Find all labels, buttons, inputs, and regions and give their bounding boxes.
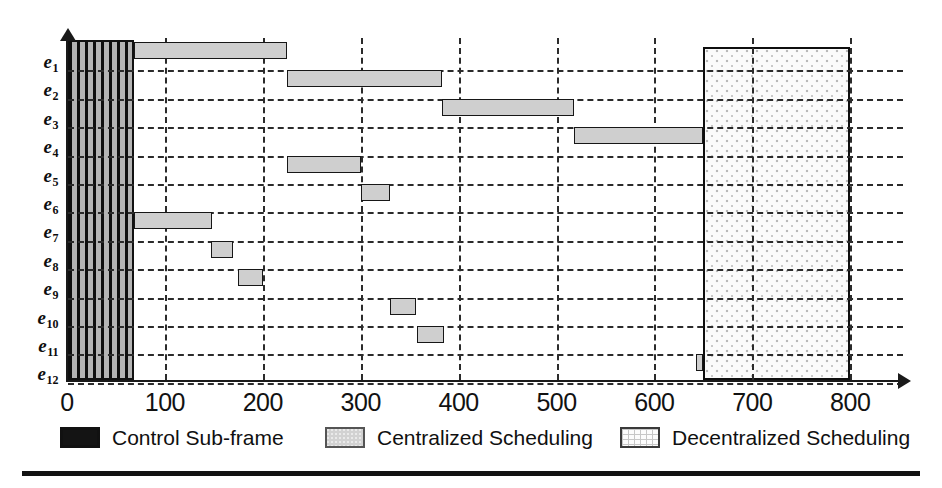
legend-label-control-subframe: Control Sub-frame	[112, 427, 284, 448]
task-bar-e12	[696, 354, 703, 371]
legend: Control Sub-frame Centralized Scheduling…	[0, 424, 942, 458]
task-bar-e1	[134, 42, 288, 59]
gridline-vertical	[263, 38, 265, 380]
gridline-horizontal	[68, 127, 903, 129]
category-label-e8: e8	[0, 251, 58, 270]
gridline-vertical	[654, 38, 656, 380]
x-tick-label-400: 400	[438, 388, 478, 417]
gridline-vertical	[459, 38, 461, 380]
control-subframe-swatch-icon	[60, 427, 100, 448]
category-label-e6: e6	[0, 194, 58, 213]
gridline-horizontal	[68, 184, 903, 186]
gridline-vertical	[557, 38, 559, 380]
task-bar-e6	[361, 184, 390, 201]
gridline-horizontal	[68, 241, 903, 243]
category-label-e9: e9	[0, 279, 58, 298]
y-axis-line	[66, 36, 68, 382]
legend-label-centralized-scheduling: Centralized Scheduling	[377, 427, 593, 448]
gridline-horizontal	[68, 354, 903, 356]
x-tick-label-500: 500	[536, 388, 576, 417]
task-bar-e8	[211, 241, 234, 258]
task-bar-e11	[417, 326, 444, 343]
x-tick-label-0: 0	[60, 388, 73, 417]
category-label-e3: e3	[0, 109, 58, 128]
gridline-horizontal	[68, 70, 903, 72]
category-label-e5: e5	[0, 166, 58, 185]
x-tick-label-800: 800	[830, 388, 870, 417]
category-label-e7: e7	[0, 222, 58, 241]
legend-label-decentralized-scheduling: Decentralized Scheduling	[672, 427, 910, 448]
y-axis-arrow-icon	[60, 28, 76, 41]
decentralized-scheduling-swatch-icon	[620, 427, 660, 448]
category-label-e12: e12	[0, 364, 58, 383]
task-bar-e5	[287, 156, 360, 173]
gridline-vertical	[752, 38, 754, 380]
gridline-horizontal	[68, 298, 903, 300]
x-tick-label-300: 300	[341, 388, 381, 417]
task-bar-e10	[390, 298, 416, 315]
category-label-e1: e1	[0, 52, 58, 71]
gridline-vertical	[165, 38, 167, 380]
x-tick-label-600: 600	[634, 388, 674, 417]
task-bar-e9	[238, 269, 262, 286]
category-label-e4: e4	[0, 137, 58, 156]
x-axis-arrow-icon	[898, 373, 911, 389]
task-bar-e2	[287, 70, 442, 87]
x-tick-label-700: 700	[732, 388, 772, 417]
scheduling-gantt-figure: e1e2e3e4e5e6e7e8e9e10e11e12 010020030040…	[0, 0, 942, 488]
plot-area: e1e2e3e4e5e6e7e8e9e10e11e12 010020030040…	[0, 0, 942, 410]
legend-item-centralized-scheduling: Centralized Scheduling	[325, 427, 593, 448]
category-label-e11: e11	[0, 336, 58, 355]
task-bar-e7	[134, 212, 212, 229]
gridline-horizontal	[68, 383, 903, 385]
x-tick-label-200: 200	[243, 388, 283, 417]
x-axis-line	[66, 380, 904, 382]
category-label-e2: e2	[0, 80, 58, 99]
category-label-e10: e10	[0, 308, 58, 327]
centralized-scheduling-swatch-icon	[325, 427, 365, 448]
gridline-horizontal	[68, 156, 903, 158]
control-subframe-region	[67, 40, 134, 380]
task-bar-e4	[574, 127, 703, 144]
gridline-horizontal	[68, 326, 903, 328]
legend-item-decentralized-scheduling: Decentralized Scheduling	[620, 427, 910, 448]
task-bar-e3	[442, 99, 574, 116]
x-tick-label-100: 100	[145, 388, 185, 417]
gridline-vertical	[361, 38, 363, 380]
bottom-divider	[22, 471, 920, 476]
gridline-vertical	[850, 38, 852, 380]
legend-item-control-subframe: Control Sub-frame	[60, 427, 284, 448]
gridline-horizontal	[68, 269, 903, 271]
